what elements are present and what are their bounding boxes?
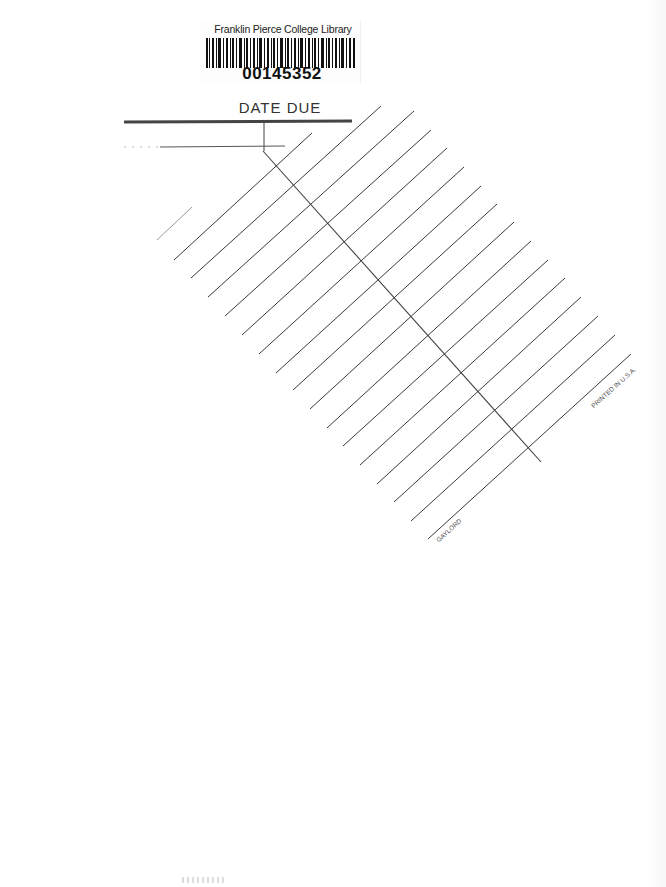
- date-rules: [157, 106, 631, 539]
- header-thick-rule: [124, 121, 352, 122]
- header-thin-rule: [160, 146, 285, 147]
- column-divider: [263, 151, 541, 462]
- faint-stamp-mark: [182, 877, 224, 883]
- date-due-grid: [0, 0, 666, 887]
